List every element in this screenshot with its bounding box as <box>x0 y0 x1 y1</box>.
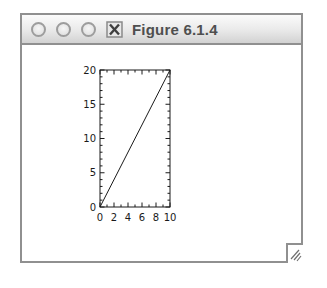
line-plot: 024681005101520 <box>72 62 186 230</box>
svg-text:0: 0 <box>90 202 96 213</box>
titlebar[interactable]: Figure 6.1.4 <box>22 15 301 45</box>
window-title: Figure 6.1.4 <box>132 21 218 38</box>
svg-text:10: 10 <box>83 133 96 144</box>
minimize-button[interactable] <box>56 22 71 37</box>
resize-grip-icon[interactable] <box>286 243 303 263</box>
window-content: 024681005101520 <box>22 45 301 261</box>
close-button[interactable] <box>31 22 46 37</box>
svg-text:6: 6 <box>139 212 145 223</box>
svg-text:8: 8 <box>153 212 159 223</box>
svg-text:0: 0 <box>97 212 103 223</box>
svg-text:20: 20 <box>83 65 96 76</box>
svg-text:15: 15 <box>83 99 96 110</box>
figure-window: Figure 6.1.4 024681005101520 <box>20 13 303 263</box>
scanned-page: Figure 6.1.4 024681005101520 <box>0 0 327 288</box>
svg-text:4: 4 <box>125 212 131 223</box>
svg-text:10: 10 <box>164 212 177 223</box>
svg-text:5: 5 <box>90 167 96 178</box>
svg-text:2: 2 <box>111 212 117 223</box>
x11-app-icon <box>106 21 123 38</box>
zoom-button[interactable] <box>81 22 96 37</box>
